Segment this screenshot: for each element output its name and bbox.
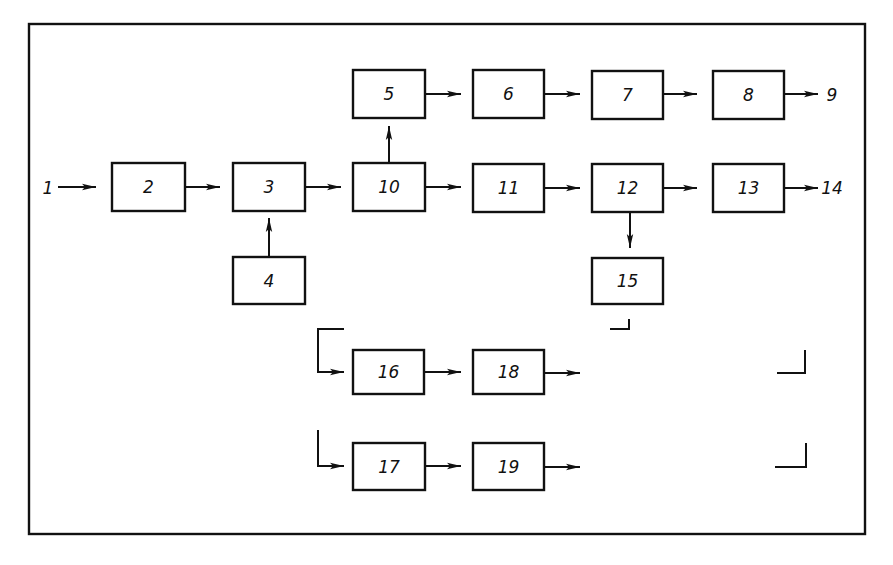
block-12: 12 — [592, 164, 663, 212]
block-label: 19 — [498, 457, 520, 477]
block-label: 10 — [378, 177, 400, 197]
block-6: 6 — [473, 70, 544, 118]
block-19: 19 — [473, 443, 544, 490]
block-label: 12 — [617, 178, 639, 198]
block-label: 15 — [617, 271, 639, 291]
block-label: 16 — [378, 362, 400, 382]
block-label: 4 — [264, 271, 275, 291]
block-17: 17 — [353, 443, 425, 490]
terminal-14: 14 — [821, 178, 843, 198]
bracket-mark-15 — [610, 319, 629, 329]
block-7: 7 — [592, 71, 663, 119]
block-label: 11 — [498, 178, 520, 198]
bracket-mark-row-16 — [777, 350, 805, 373]
block-label: 3 — [264, 177, 275, 197]
block-8: 8 — [713, 71, 784, 119]
block-label: 7 — [622, 85, 633, 105]
branch-into-16 — [318, 329, 344, 372]
block-18: 18 — [473, 350, 544, 394]
block-3: 3 — [233, 163, 305, 211]
bracket-mark-row-17 — [775, 443, 806, 467]
terminal-9: 9 — [827, 85, 838, 105]
block-10: 10 — [353, 163, 425, 211]
block-15: 15 — [592, 258, 663, 304]
block-label: 8 — [743, 85, 754, 105]
block-label: 18 — [498, 362, 520, 382]
blocks: 2341056781112131516181719 — [112, 70, 784, 490]
connectors — [58, 94, 818, 467]
block-4: 4 — [233, 257, 305, 304]
block-label: 6 — [503, 84, 514, 104]
block-label: 5 — [384, 84, 395, 104]
block-label: 17 — [378, 457, 400, 477]
block-5: 5 — [353, 70, 425, 118]
block-diagram: 2341056781112131516181719 1914 — [0, 0, 893, 565]
block-label: 13 — [738, 178, 760, 198]
branch-into-17 — [318, 430, 344, 466]
block-label: 2 — [143, 177, 154, 197]
block-13: 13 — [713, 164, 784, 212]
block-16: 16 — [353, 350, 424, 394]
block-2: 2 — [112, 163, 185, 211]
block-11: 11 — [473, 164, 544, 212]
terminal-1: 1 — [43, 178, 54, 198]
